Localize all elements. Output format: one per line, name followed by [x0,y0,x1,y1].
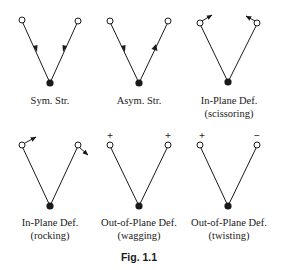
minus-sign-icon: − [254,129,260,142]
plus-sign-icon: + [165,129,171,142]
arrow-icon [202,15,212,21]
mode-sublabel: (twisting) [209,229,250,242]
h-atom [197,20,203,26]
central-atom [224,78,231,85]
mode-twisting [197,142,260,210]
h-atom [165,142,171,148]
mode-sublabel: (wagging) [117,229,160,242]
central-atom [224,202,231,209]
arrow-icon [25,137,36,143]
h-atom [19,17,25,23]
central-atom [135,79,142,86]
plus-sign-icon: + [199,129,205,142]
h-atom [107,142,113,148]
mode-label: In-Plane Def. [22,216,79,229]
h-atom [107,18,113,24]
mode-sym-stretch [19,17,81,87]
mode-label: Out-of-Plane Def. [101,216,177,229]
h-atom [19,142,25,148]
mode-rocking [19,137,88,210]
h-atom [75,18,81,24]
arrow-icon [80,148,88,155]
h-atom [254,142,260,148]
central-atom [46,79,53,86]
mode-sublabel: (scissoring) [205,107,254,120]
mode-label: Out-of-Plane Def. [191,216,267,229]
plus-sign-icon: + [107,129,113,142]
mode-wagging [107,142,171,210]
mode-asym-stretch [107,18,171,87]
mode-label: Asym. Str. [117,94,162,107]
arrow-icon [246,16,255,21]
h-atom [75,142,81,148]
figure-caption: Fig. 1.1 [121,251,157,263]
mode-label: In-Plane Def. [201,94,258,107]
mode-scissoring [197,15,260,86]
h-atom [165,18,171,24]
mode-sublabel: (rocking) [30,229,69,242]
h-atom [197,142,203,148]
central-atom [135,202,142,209]
central-atom [46,202,53,209]
h-atom [254,20,260,26]
mode-label: Sym. Str. [31,94,70,107]
